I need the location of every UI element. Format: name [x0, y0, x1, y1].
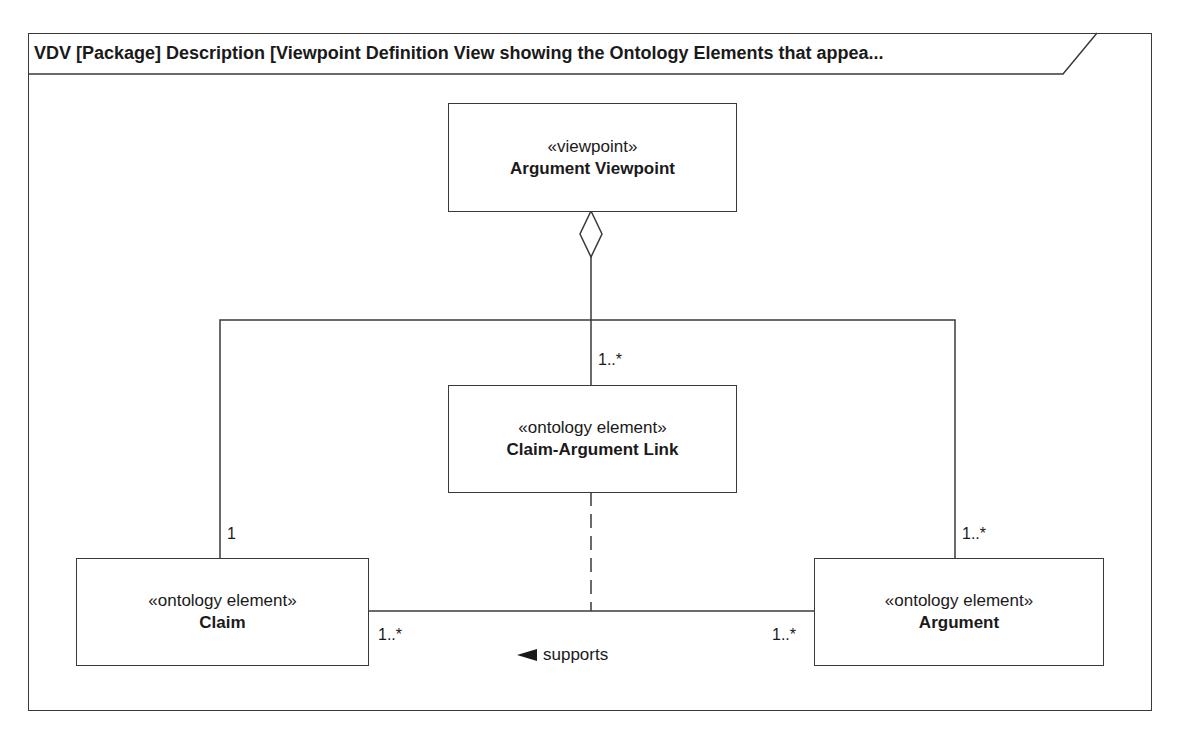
- block-stereotype: «ontology element»: [148, 590, 296, 612]
- block-stereotype: «viewpoint»: [548, 136, 638, 158]
- block-stereotype: «ontology element»: [885, 590, 1033, 612]
- block-name: Argument Viewpoint: [510, 158, 675, 180]
- argument-block[interactable]: «ontology element» Argument: [814, 558, 1104, 666]
- multiplicity-link-top: 1..*: [598, 351, 622, 369]
- multiplicity-claim-right: 1..*: [378, 626, 402, 644]
- block-stereotype: «ontology element»: [518, 417, 666, 439]
- claim-block[interactable]: «ontology element» Claim: [76, 558, 369, 666]
- claim-argument-link-block[interactable]: «ontology element» Claim-Argument Link: [448, 385, 737, 493]
- diagram-title: VDV [Package] Description [Viewpoint Def…: [34, 43, 883, 64]
- block-name: Claim-Argument Link: [507, 439, 679, 461]
- direction-triangle-icon: [517, 649, 537, 661]
- supports-association-label: supports: [517, 645, 608, 665]
- multiplicity-argument-top: 1..*: [962, 525, 986, 543]
- aggregation-diamond-icon: [580, 211, 602, 257]
- block-name: Claim: [199, 612, 245, 634]
- block-name: Argument: [919, 612, 999, 634]
- multiplicity-claim-top: 1: [227, 525, 236, 543]
- multiplicity-argument-left: 1..*: [772, 626, 796, 644]
- argument-viewpoint-block[interactable]: «viewpoint» Argument Viewpoint: [448, 103, 737, 212]
- association-name: supports: [543, 645, 608, 665]
